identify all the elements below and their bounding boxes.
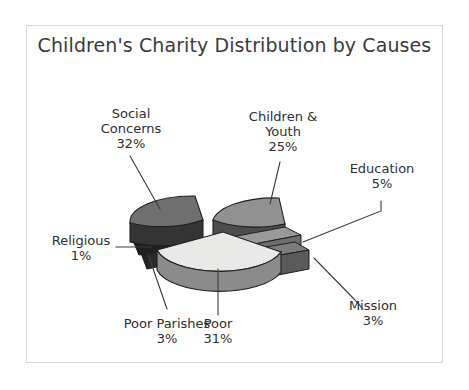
label-social-concerns: Social Concerns 32% [86,106,176,151]
label-mission: Mission 3% [335,298,411,328]
label-poor-parishes: Poor Parishes 3% [100,316,234,346]
label-education: Education 5% [337,161,427,191]
leader-line-education [303,201,381,242]
slice-social-concerns [130,196,203,246]
leader-line-social-concerns [130,156,160,209]
chart-frame: Children's Charity Distribution by Cause… [26,25,443,363]
label-religious: Religious 1% [43,233,119,263]
label-children-youth: Children & Youth 25% [237,109,329,154]
